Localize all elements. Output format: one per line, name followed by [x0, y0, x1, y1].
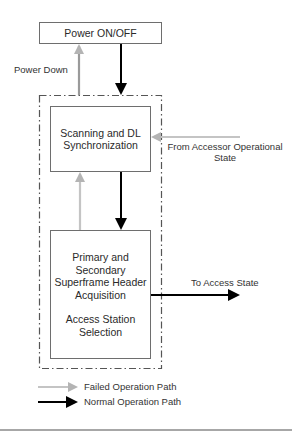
- from-accessor-line2: State: [163, 152, 287, 163]
- state-acq-line5: Access Station: [66, 313, 135, 326]
- state-acq-line4: Acquisition: [75, 289, 126, 302]
- power-down-label: Power Down: [14, 64, 68, 75]
- state-scanning-line1: Scanning and DL: [60, 127, 141, 140]
- state-scanning-line2: Synchronization: [63, 139, 138, 152]
- state-scanning-dl-sync: Scanning and DL Synchronization: [50, 106, 151, 172]
- state-power-on-off: Power ON/OFF: [39, 22, 162, 44]
- state-acq-line2: Secondary: [75, 264, 125, 277]
- state-acq-line3: Superframe Header: [54, 276, 146, 289]
- to-access-state-label: To Access State: [191, 277, 259, 288]
- legend-failed-label: Failed Operation Path: [84, 381, 176, 392]
- legend-normal-label: Normal Operation Path: [84, 396, 181, 407]
- from-accessor-line1: From Accessor Operational: [163, 141, 287, 152]
- from-accessor-label: From Accessor Operational State: [163, 141, 287, 163]
- state-power-label: Power ON/OFF: [64, 27, 136, 40]
- state-acq-line6: Selection: [79, 326, 122, 339]
- state-header-acquisition: Primary and Secondary Superframe Header …: [50, 230, 151, 359]
- state-acq-line1: Primary and: [72, 251, 129, 264]
